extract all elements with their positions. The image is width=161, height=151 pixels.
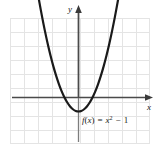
function-label-constant: 1 [124,115,129,125]
grid-lines [10,18,150,144]
y-axis-label: y [67,4,72,14]
x-axis [12,94,153,101]
function-label-exponent: 2 [110,115,113,121]
x-axis-label: x [146,102,151,112]
function-label-close-paren: ) [92,115,95,125]
parabola-sample-guide [45,18,79,69]
graph-canvas: y x f(x)=x2−1 [0,0,161,151]
function-label-minus: − [116,115,121,125]
y-axis-arrow-icon [75,5,82,13]
parabola-figure: y x f(x)=x2−1 [0,0,161,151]
function-label-equals: = [98,115,103,125]
